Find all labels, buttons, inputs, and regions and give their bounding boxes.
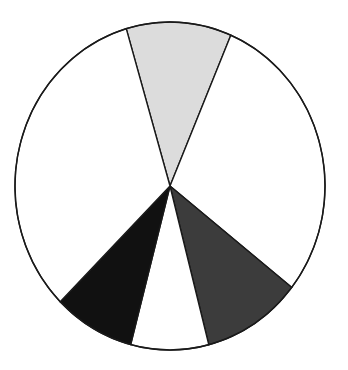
pie-slice-group xyxy=(15,22,325,350)
pie-chart-figure xyxy=(0,0,348,370)
pie-chart-svg xyxy=(0,0,348,370)
